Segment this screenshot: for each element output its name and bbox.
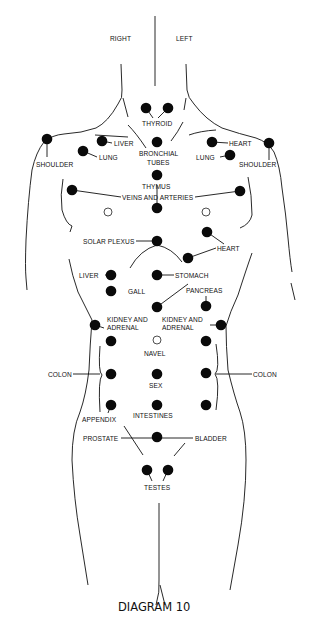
bronchial-label-1: BRONCHIAL	[139, 150, 179, 157]
thymus-point	[152, 170, 163, 181]
colon-right-label: COLON	[48, 371, 72, 378]
kidney-right-label-2: ADRENAL	[107, 324, 139, 331]
shoulder-left-point	[264, 138, 275, 149]
pancreas-label: PANCREAS	[186, 287, 223, 294]
heart-lower-label: HEART	[217, 245, 240, 252]
colon-right-upper-point	[106, 336, 117, 347]
veins-right-point	[67, 185, 78, 196]
diagram-caption: DIAGRAM 10	[118, 600, 190, 614]
testes-point-left	[163, 465, 174, 476]
testes-point-right	[142, 465, 153, 476]
colon-left-lower-point	[201, 400, 212, 411]
intestines-label: INTESTINES	[133, 412, 173, 419]
kidney-left-label-1: KIDNEY AND	[162, 316, 203, 323]
thyroid-label: THYROID	[142, 120, 173, 127]
solar-plexus-label: SOLAR PLEXUS	[83, 238, 135, 245]
nipple-left-marker	[202, 208, 210, 216]
liver-upper-point	[97, 136, 108, 147]
colon-left-upper-point	[201, 336, 212, 347]
body-reflex-diagram: RIGHT LEFT	[0, 0, 314, 623]
right-side-label: RIGHT	[110, 35, 131, 42]
thyroid-point-right	[141, 103, 152, 114]
liver-mid-label: LIVER	[79, 272, 99, 279]
gall-point	[106, 286, 117, 297]
intestines-point	[152, 400, 163, 411]
prostate-bladder-point	[152, 432, 163, 443]
bronchial-point	[152, 137, 163, 148]
stomach-label: STOMACH	[175, 272, 209, 279]
stomach-lower-point	[152, 302, 163, 313]
kidney-right-label-1: KIDNEY AND	[107, 316, 148, 323]
stomach-point	[152, 270, 163, 281]
thyroid-point-left	[163, 103, 174, 114]
solar-plexus-point	[152, 236, 163, 247]
thymus-label: THYMUS	[142, 183, 171, 190]
kidney-right-point	[90, 320, 101, 331]
liver-upper-label: LIVER	[114, 140, 134, 147]
heart-upper-label: HEART	[229, 140, 252, 147]
prostate-label: PROSTATE	[83, 435, 119, 442]
appendix-point	[106, 400, 117, 411]
lung-left-point	[225, 150, 236, 161]
gall-label: GALL	[128, 288, 145, 295]
sex-label: SEX	[149, 382, 163, 389]
heart-lower-point	[183, 253, 194, 264]
bladder-label: BLADDER	[195, 435, 227, 442]
veins-label: VEINS AND ARTERIES	[122, 194, 194, 201]
colon-right-mid-point	[106, 369, 117, 380]
heart-upper-point	[207, 137, 218, 148]
pancreas-point	[201, 301, 212, 312]
navel-label: NAVEL	[144, 350, 166, 357]
nipple-right-marker	[104, 208, 112, 216]
navel-marker	[153, 336, 161, 344]
lung-left-label: LUNG	[196, 154, 215, 161]
veins-left-point	[235, 186, 246, 197]
left-side-label: LEFT	[176, 35, 193, 42]
shoulder-left-label: SHOULDER	[239, 161, 277, 168]
sex-point	[152, 369, 163, 380]
veins-center-point	[152, 203, 163, 214]
colon-left-mid-point	[201, 368, 212, 379]
liver-mid-point	[106, 270, 117, 281]
shoulder-right-point	[42, 134, 53, 145]
kidney-left-label-2: ADRENAL	[162, 324, 194, 331]
testes-label: TESTES	[144, 484, 171, 491]
shoulder-right-label: SHOULDER	[36, 161, 74, 168]
colon-left-label: COLON	[253, 371, 277, 378]
appendix-label: APPENDIX	[82, 416, 117, 423]
heart-mid-point	[202, 227, 213, 238]
bronchial-label-2: TUBES	[147, 159, 170, 166]
kidney-left-point	[216, 320, 227, 331]
lung-right-point	[78, 146, 89, 157]
lung-right-label: LUNG	[99, 154, 118, 161]
